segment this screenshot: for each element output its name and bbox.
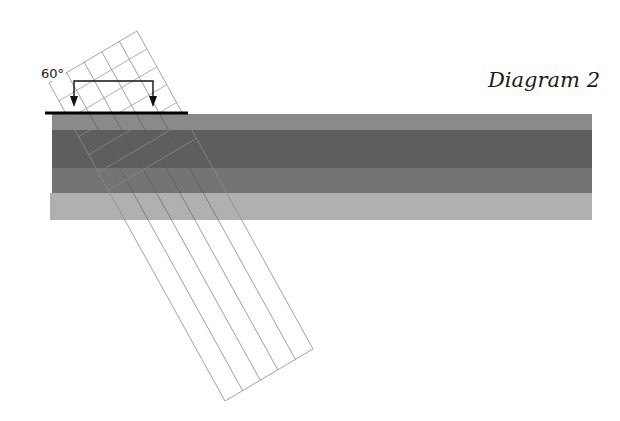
beam-strip-line (84, 62, 260, 380)
beam-cross-line (59, 49, 147, 101)
arrow-right-head-icon (149, 96, 157, 107)
layer-3 (52, 168, 592, 193)
diagram-title: Diagram 2 (488, 68, 600, 92)
arrow-bracket (74, 81, 153, 99)
wavefront-arrows (70, 81, 157, 107)
angle-label: 60° (40, 66, 65, 81)
ground-layers (50, 114, 592, 220)
diagram-canvas (0, 0, 620, 421)
layer-2 (52, 130, 592, 168)
beam-cross-line (69, 67, 157, 119)
layer-1 (52, 114, 592, 130)
arrow-left-head-icon (70, 96, 78, 107)
layer-4 (50, 193, 592, 220)
